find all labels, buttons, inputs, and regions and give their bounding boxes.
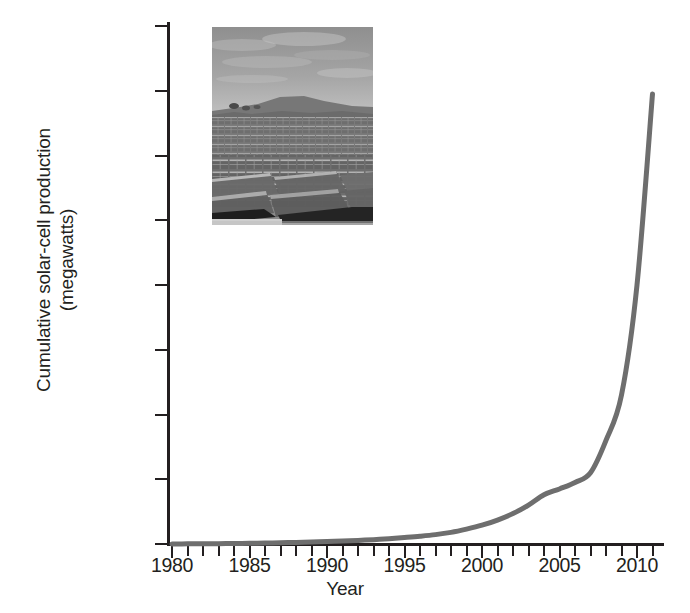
solar-production-chart-figure: Cumulative solar-cell production (megawa… <box>0 0 690 613</box>
solar-farm-illustration <box>212 27 373 225</box>
solar-panel-farm-photo <box>212 27 373 225</box>
